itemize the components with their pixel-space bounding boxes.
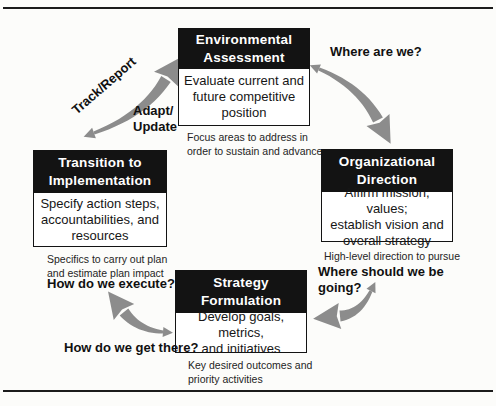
bottom-rule (3, 390, 493, 392)
arrow-where-should-we-be-going-head (313, 303, 341, 329)
label-adapt-update: Adapt/ Update (133, 103, 177, 134)
label-how-do-we-get-there: How do we get there? (64, 340, 198, 356)
label-where-are-we: Where are we? (330, 44, 422, 60)
transition-to-implementation-description: Specify action steps, accountabilities, … (34, 193, 166, 246)
environmental-assessment-box: Environmental Assessment Evaluate curren… (178, 28, 310, 126)
transition-to-implementation-title: Transition to Implementation (34, 151, 166, 193)
environmental-assessment-caption: Focus areas to address in order to susta… (187, 130, 322, 158)
organizational-direction-description: Affirm mission, values; establish vision… (322, 192, 452, 241)
strategy-formulation-caption: Key desired outcomes and priority activi… (188, 358, 312, 386)
strategic-planning-cycle-diagram: Environmental Assessment Evaluate curren… (0, 0, 496, 406)
organizational-direction-box: Organizational Direction Affirm mission,… (321, 149, 453, 242)
label-where-should-we-be-going: Where should we be going? (318, 264, 444, 295)
organizational-direction-caption: High-level direction to pursue (324, 249, 460, 263)
arrow-where-are-we-shaft (318, 68, 383, 123)
transition-to-implementation-box: Transition to Implementation Specify act… (33, 150, 167, 247)
arrow-how-do-we-get-there-tail-head (163, 327, 173, 337)
label-how-do-we-execute: How do we execute? (47, 276, 175, 292)
environmental-assessment-description: Evaluate current and future competitive … (179, 69, 309, 125)
strategy-formulation-title: Strategy Formulation (176, 271, 306, 313)
arrow-how-do-we-get-there-shaft (120, 309, 163, 334)
environmental-assessment-title: Environmental Assessment (179, 29, 309, 69)
